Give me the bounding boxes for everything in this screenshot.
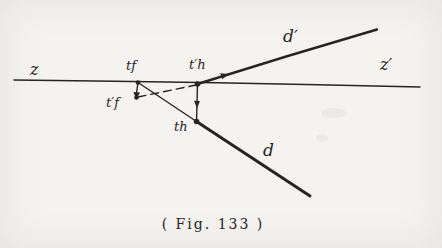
- descriptive-geometry-figure: z z′ d′ d tf t′h t′f th ( Fig. 133 ): [0, 0, 442, 248]
- point-label-th-prime: t′h: [189, 57, 206, 72]
- point-label-th: th: [174, 119, 188, 134]
- recall-line-h-arrowhead: [194, 101, 200, 109]
- point-tf-prime: [134, 95, 139, 100]
- axis-label-z: z: [29, 60, 39, 79]
- figure-caption: ( Fig. 133 ): [162, 216, 265, 232]
- line-label-d-prime: d′: [283, 26, 298, 46]
- line-d-prime-arrowhead: [220, 73, 229, 79]
- paper-smudge: [316, 134, 328, 142]
- line-label-d: d: [263, 140, 274, 160]
- axis-label-z-prime: z′: [379, 55, 392, 74]
- point-th: [194, 119, 200, 125]
- point-th-prime: [195, 81, 201, 87]
- point-label-tf-prime: t′f: [106, 95, 121, 110]
- line-d-upper-segment: [138, 83, 197, 122]
- line-d: [197, 122, 311, 197]
- point-label-tf: tf: [126, 58, 138, 73]
- paper-smudge: [321, 108, 347, 118]
- dashed-construction-line: [138, 85, 196, 97]
- axis-line-zz: [14, 80, 420, 87]
- point-tf: [136, 80, 141, 85]
- scanned-figure-page: z z′ d′ d tf t′h t′f th ( Fig. 133 ): [0, 0, 442, 248]
